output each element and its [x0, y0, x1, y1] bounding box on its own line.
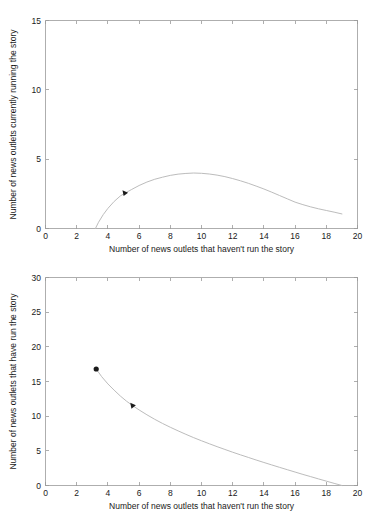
start-dot-marker — [94, 366, 99, 371]
x-tick-label: 8 — [168, 488, 173, 498]
x-tick-label: 16 — [290, 231, 300, 241]
arrow-marker — [122, 190, 128, 196]
x-tick-label: 10 — [197, 231, 207, 241]
y-axis: 051015 — [32, 16, 358, 234]
x-tick-label: 4 — [106, 488, 111, 498]
plot-canvas-top: 02468101214161820051015Number of news ou… — [0, 0, 383, 257]
x-tick-label: 10 — [197, 488, 207, 498]
x-tick-label: 2 — [74, 231, 79, 241]
x-tick-label: 4 — [106, 231, 111, 241]
y-tick-label: 15 — [32, 16, 42, 26]
x-tick-label: 20 — [353, 488, 363, 498]
y-axis-title: Number of news outlets that have run the… — [8, 293, 18, 470]
axis-frame — [46, 278, 358, 486]
x-tick-label: 6 — [137, 231, 142, 241]
y-tick-label: 25 — [32, 307, 42, 317]
data-curve — [95, 173, 341, 228]
x-tick-label: 18 — [322, 488, 332, 498]
y-axis-title: Number of news outlets currently running… — [8, 29, 18, 220]
x-tick-label: 8 — [168, 231, 173, 241]
y-tick-label: 15 — [32, 377, 42, 387]
y-axis: 051015202530 — [32, 273, 358, 491]
x-axis: 02468101214161820 — [43, 278, 362, 499]
x-tick-label: 12 — [228, 231, 238, 241]
x-tick-label: 14 — [259, 231, 269, 241]
x-tick-label: 14 — [259, 488, 269, 498]
x-tick-label: 12 — [228, 488, 238, 498]
y-tick-label: 0 — [36, 224, 41, 234]
x-tick-label: 6 — [137, 488, 142, 498]
x-tick-label: 0 — [43, 231, 48, 241]
y-tick-label: 5 — [36, 446, 41, 456]
axis-frame — [46, 21, 358, 229]
y-tick-label: 20 — [32, 342, 42, 352]
y-tick-label: 5 — [36, 154, 41, 164]
x-axis-title: Number of news outlets that haven't run … — [109, 501, 295, 511]
x-tick-label: 2 — [74, 488, 79, 498]
plot-canvas-bottom: 02468101214161820051015202530Number of n… — [0, 257, 383, 514]
y-tick-label: 30 — [32, 273, 42, 283]
y-tick-label: 10 — [32, 411, 42, 421]
y-tick-label: 0 — [36, 481, 41, 491]
y-tick-label: 10 — [32, 85, 42, 95]
chart-panel-top: 02468101214161820051015Number of news ou… — [0, 0, 383, 257]
data-curve — [96, 369, 342, 485]
x-axis-title: Number of news outlets that haven't run … — [109, 244, 295, 254]
x-tick-label: 18 — [322, 231, 332, 241]
x-tick-label: 16 — [290, 488, 300, 498]
chart-panel-bottom: 02468101214161820051015202530Number of n… — [0, 257, 383, 514]
x-tick-label: 0 — [43, 488, 48, 498]
x-tick-label: 20 — [353, 231, 363, 241]
